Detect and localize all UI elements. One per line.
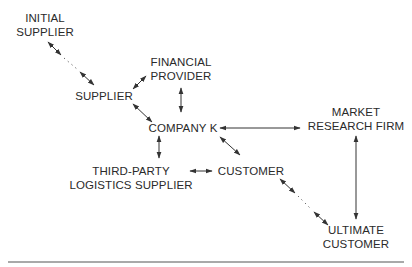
node-label-line2: SUPPLIER [16,25,74,39]
node-label-line2: CUSTOMER [323,237,389,251]
node-label-line1: CUSTOMER [218,164,284,178]
node-label-line1: THIRD-PARTY [69,164,192,178]
arrow-company-customer [220,137,240,155]
arrow-supplier-financial [133,76,146,89]
node-customer: CUSTOMER [218,164,284,178]
dotted-initial-to-supplier [64,58,77,69]
node-third-party-logistics: THIRD-PARTY LOGISTICS SUPPLIER [69,164,192,192]
arrow-supplier-company [133,104,152,122]
node-supplier: SUPPLIER [75,89,133,103]
node-label-line1: MARKET [308,105,405,119]
node-initial-supplier: INITIAL SUPPLIER [16,11,74,39]
node-company-k: COMPANY K [149,121,218,135]
node-market-research-firm: MARKET RESEARCH FIRM [308,105,405,133]
node-label-line2: RESEARCH FIRM [308,119,405,133]
node-label-line2: LOGISTICS SUPPLIER [69,178,192,192]
node-label-line1: SUPPLIER [75,89,133,103]
arrow-customer-lower [280,179,295,193]
arrow-initial-supplier-upper [48,42,61,55]
node-label-line1: COMPANY K [149,121,218,135]
dotted-customer-to-ultimate [298,196,311,209]
arrow-supplier-upper [80,72,94,85]
node-label-line1: FINANCIAL [151,55,212,69]
node-label-line2: PROVIDER [151,69,212,83]
node-financial-provider: FINANCIAL PROVIDER [151,55,212,83]
node-ultimate-customer: ULTIMATE CUSTOMER [323,223,389,251]
node-label-line1: INITIAL [16,11,74,25]
node-label-line1: ULTIMATE [323,223,389,237]
